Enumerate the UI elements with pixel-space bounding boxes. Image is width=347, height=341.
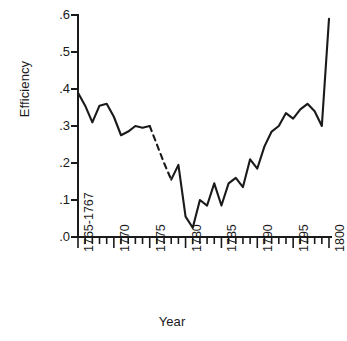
- y-tick-label: .6: [40, 8, 70, 21]
- data-line-1: [78, 93, 150, 136]
- x-tick-label: 1780: [191, 224, 204, 252]
- y-axis-tick-labels: .0.1.2.3.4.5.6: [38, 0, 70, 250]
- x-tick-label: 1775: [155, 224, 168, 252]
- y-axis-title: Efficiency: [13, 29, 35, 149]
- data-series-group: [78, 19, 329, 228]
- y-tick-label: .3: [40, 119, 70, 132]
- y-tick-label: .4: [40, 82, 70, 95]
- x-axis-title: Year: [0, 312, 344, 330]
- x-axis-title-text: Year: [159, 314, 186, 329]
- y-axis-title-text: Efficiency: [17, 61, 32, 117]
- y-tick-label: .0: [40, 230, 70, 243]
- data-line-2: [150, 126, 172, 180]
- x-tick-label: 1800: [334, 224, 347, 252]
- y-tick-label: .1: [40, 193, 70, 206]
- x-tick-label: 1790: [262, 224, 275, 252]
- y-tick-label: .2: [40, 156, 70, 169]
- x-tick-label: 1770: [119, 224, 132, 252]
- x-tick-label: 1765-1767: [83, 192, 96, 252]
- y-tick-label: .5: [40, 45, 70, 58]
- data-line-3: [171, 19, 329, 228]
- x-tick-label: 1795: [298, 224, 311, 252]
- x-tick-label: 1785: [226, 224, 239, 252]
- axes-group: [71, 14, 332, 248]
